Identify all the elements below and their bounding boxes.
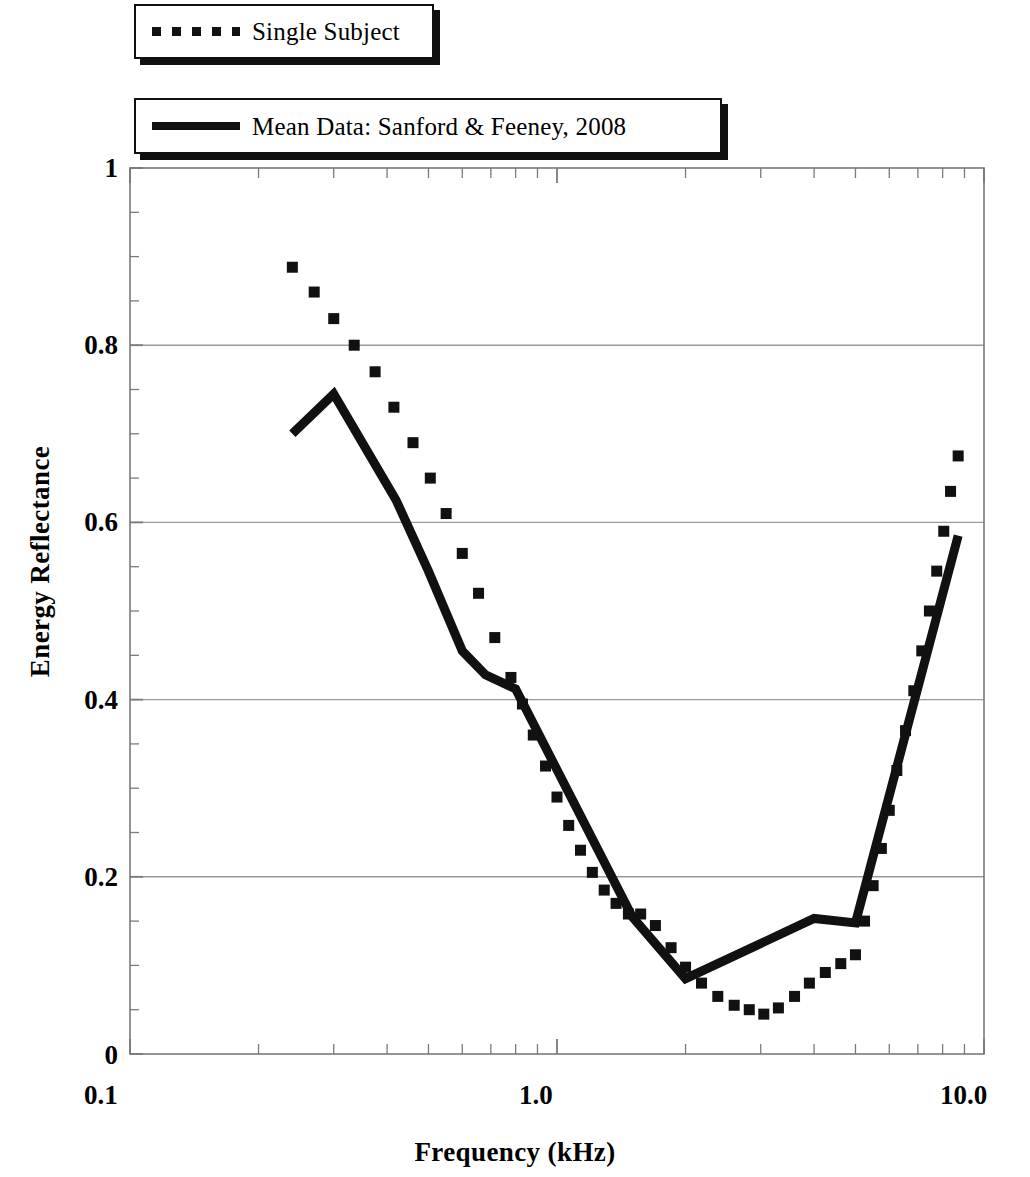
plot-canvas: [0, 0, 1030, 1177]
chart-figure: Single Subject Mean Data: Sanford & Feen…: [0, 0, 1030, 1177]
series-line-mean-data: [292, 394, 958, 979]
